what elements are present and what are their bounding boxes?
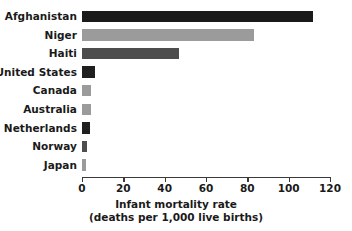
bar-row: Norway <box>82 137 330 156</box>
bar-row: Australia <box>82 100 330 119</box>
x-axis-title: Infant mortality rate <box>0 198 352 211</box>
category-label: Canada <box>33 85 77 96</box>
bar-row: Haiti <box>82 44 330 63</box>
x-axis-tick <box>123 177 124 182</box>
x-axis-tick-label: 60 <box>199 182 214 195</box>
bar <box>82 141 87 153</box>
bar <box>82 29 254 41</box>
bar-row: Niger <box>82 26 330 45</box>
category-label: Japan <box>44 160 77 171</box>
bar-row: Canada <box>82 81 330 100</box>
bar-row: Netherlands <box>82 119 330 138</box>
category-label: Afghanistan <box>5 11 77 22</box>
plot-area: AfghanistanNigerHaitiUnited StatesCanada… <box>82 7 330 177</box>
x-axis-tick-label: 80 <box>240 182 255 195</box>
bar <box>82 85 91 97</box>
bar <box>82 66 95 78</box>
x-axis-tick-label: 120 <box>319 182 341 195</box>
x-axis-tick-label: 100 <box>278 182 300 195</box>
x-axis-subtitle: (deaths per 1,000 live births) <box>0 211 352 224</box>
category-label: United States <box>0 67 77 78</box>
x-axis-tick <box>206 177 207 182</box>
bar-row: Afghanistan <box>82 7 330 26</box>
bar <box>82 122 90 134</box>
bar <box>82 104 91 116</box>
category-label: Niger <box>45 30 77 41</box>
bar-row: Japan <box>82 156 330 175</box>
x-axis-tick <box>330 177 331 182</box>
infant-mortality-bar-chart: AfghanistanNigerHaitiUnited StatesCanada… <box>0 0 352 231</box>
bar-row: United States <box>82 63 330 82</box>
category-label: Norway <box>32 141 77 152</box>
bar <box>82 48 179 60</box>
x-axis-tick <box>247 177 248 182</box>
category-label: Netherlands <box>4 123 77 134</box>
category-label: Australia <box>23 104 77 115</box>
bar <box>82 11 313 23</box>
x-axis-tick <box>165 177 166 182</box>
x-axis-tick-label: 0 <box>78 182 85 195</box>
bar <box>82 159 86 171</box>
x-axis-tick <box>82 177 83 182</box>
category-label: Haiti <box>49 48 77 59</box>
x-axis-tick <box>289 177 290 182</box>
x-axis-tick-label: 40 <box>157 182 172 195</box>
x-axis-tick-label: 20 <box>116 182 131 195</box>
